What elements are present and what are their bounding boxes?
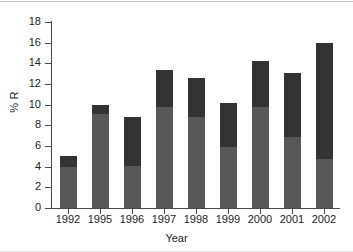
plot-area <box>52 22 340 208</box>
top-divider <box>0 1 353 2</box>
bar-segment-lower <box>220 147 237 208</box>
x-tick-label-2000: 2000 <box>244 213 276 225</box>
y-tick-label: 4 <box>35 160 41 172</box>
y-tick-label: 10 <box>29 98 41 110</box>
x-tick-label-1995: 1995 <box>84 213 116 225</box>
bar-2001 <box>284 73 301 208</box>
bar-1997 <box>156 70 173 208</box>
bar-2000 <box>252 61 269 208</box>
y-tick: 18 <box>45 22 51 23</box>
x-tick-label-1999: 1999 <box>212 213 244 225</box>
y-tick: 16 <box>45 43 51 44</box>
x-tick-label-1996: 1996 <box>116 213 148 225</box>
bar-segment-lower <box>284 137 301 208</box>
y-tick-label: 12 <box>29 77 41 89</box>
bar-segment-upper <box>124 117 141 166</box>
y-tick: 2 <box>45 187 51 188</box>
bar-1998 <box>188 78 205 208</box>
y-tick: 4 <box>45 167 51 168</box>
bar-segment-upper <box>316 43 333 160</box>
chart-figure: % R 024681012141618 19921995199619971998… <box>0 0 353 252</box>
x-tick-label-1997: 1997 <box>148 213 180 225</box>
x-tick-label-2001: 2001 <box>276 213 308 225</box>
y-tick: 12 <box>45 84 51 85</box>
bar-segment-lower <box>156 107 173 208</box>
y-axis-title: % R <box>8 72 20 132</box>
bar-segment-lower <box>188 117 205 208</box>
x-axis-title: Year <box>0 232 353 244</box>
y-tick-label: 2 <box>35 180 41 192</box>
y-tick-label: 6 <box>35 139 41 151</box>
bar-1996 <box>124 117 141 208</box>
bar-segment-upper <box>220 103 237 147</box>
bar-1999 <box>220 103 237 208</box>
bar-segment-upper <box>252 61 269 106</box>
y-tick-label: 0 <box>35 201 41 213</box>
y-tick-label: 16 <box>29 36 41 48</box>
bar-segment-upper <box>156 70 173 107</box>
y-tick-label: 14 <box>29 56 41 68</box>
bar-1995 <box>92 105 109 208</box>
bar-segment-upper <box>284 73 301 137</box>
bar-segment-upper <box>92 105 109 114</box>
bar-segment-lower <box>60 167 77 208</box>
y-tick: 10 <box>45 105 51 106</box>
y-tick: 14 <box>45 63 51 64</box>
y-tick-label: 18 <box>29 15 41 27</box>
bar-segment-upper <box>60 156 77 166</box>
y-tick-label: 8 <box>35 118 41 130</box>
y-tick: 8 <box>45 125 51 126</box>
x-tick-label-2002: 2002 <box>308 213 340 225</box>
bar-segment-lower <box>252 107 269 208</box>
bar-1992 <box>60 156 77 208</box>
x-tick-label-1998: 1998 <box>180 213 212 225</box>
y-tick: 0 <box>45 208 51 209</box>
bar-segment-lower <box>124 166 141 208</box>
bar-segment-lower <box>316 159 333 208</box>
y-tick: 6 <box>45 146 51 147</box>
bar-segment-upper <box>188 78 205 117</box>
bar-2002 <box>316 43 333 208</box>
bar-segment-lower <box>92 114 109 208</box>
x-tick-label-1992: 1992 <box>52 213 84 225</box>
